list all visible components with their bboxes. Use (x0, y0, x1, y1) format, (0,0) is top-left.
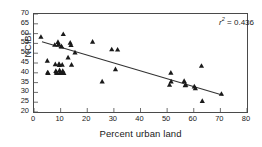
y-tick-label: 30 (13, 87, 29, 95)
data-point (109, 47, 114, 52)
data-point (113, 66, 118, 71)
y-tick-label: 20 (13, 107, 29, 115)
r-value: 0.436 (234, 18, 254, 27)
x-tick-label: 80 (236, 115, 256, 123)
r-squared-annotation: r2 = 0.436 (219, 16, 254, 27)
data-point (45, 58, 50, 63)
y-tick-label: 70 (13, 9, 29, 17)
data-point (65, 55, 70, 60)
data-point (200, 98, 205, 103)
x-tick-label: 60 (183, 115, 203, 123)
data-point (219, 91, 224, 96)
y-tick-label: 40 (13, 68, 29, 76)
scatter-plot-figure: NCIBI r2 = 0.436 Percent urban land 2025… (0, 0, 262, 147)
data-point (38, 34, 43, 39)
data-point (115, 47, 120, 52)
y-tick-label: 25 (13, 97, 29, 105)
plot-area (33, 13, 248, 113)
data-point (61, 31, 66, 36)
data-point (90, 39, 95, 44)
y-tick-label: 45 (13, 58, 29, 66)
x-tick-label: 10 (50, 115, 70, 123)
plot-canvas (34, 14, 247, 112)
y-tick-label: 65 (13, 19, 29, 27)
data-point (199, 63, 204, 68)
x-tick-label: 30 (103, 115, 123, 123)
x-axis-title: Percent urban land (33, 128, 248, 139)
r-equals: = (225, 18, 234, 27)
y-tick-label: 60 (13, 29, 29, 37)
data-point (69, 62, 74, 67)
data-point (182, 78, 187, 83)
x-tick-label: 70 (209, 115, 229, 123)
y-tick-label: 35 (13, 78, 29, 86)
y-tick-label: 55 (13, 38, 29, 46)
x-tick-label: 20 (76, 115, 96, 123)
x-tick-label: 40 (130, 115, 150, 123)
x-tick-label: 50 (156, 115, 176, 123)
data-point (168, 70, 173, 75)
y-tick-label: 50 (13, 48, 29, 56)
x-tick-label: 0 (23, 115, 43, 123)
data-point (100, 79, 105, 84)
